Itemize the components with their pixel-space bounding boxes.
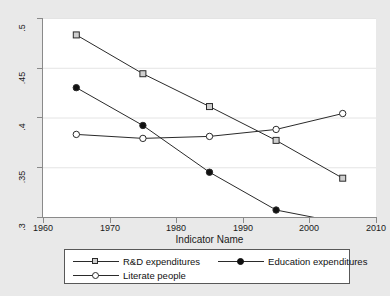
square-marker-icon	[140, 71, 146, 77]
open-circle-marker-icon	[92, 272, 99, 279]
series-layer	[73, 32, 346, 217]
x-tick-label: 2010	[356, 223, 390, 233]
legend-row-1: R&D expenditures Education expenditures	[73, 254, 367, 269]
x-tick-label: 1990	[223, 223, 263, 233]
legend-entry-rd[interactable]: R&D expenditures	[73, 254, 200, 269]
y-axis-line	[42, 18, 43, 218]
x-tick-label: 2000	[289, 223, 329, 233]
legend-label-education: Education expenditures	[268, 256, 367, 267]
y-tick	[37, 68, 43, 69]
y-tick-label: .4	[17, 115, 27, 139]
plot-area	[43, 18, 376, 217]
x-tick-label: 1960	[23, 223, 63, 233]
filled-circle-marker-icon	[140, 122, 146, 128]
square-marker-icon	[92, 258, 98, 264]
plot-svg	[43, 18, 376, 217]
y-tick	[37, 117, 43, 118]
y-tick-label: .35	[17, 165, 27, 189]
legend-key-open-circle	[73, 270, 119, 282]
y-tick	[37, 18, 43, 19]
legend-entry-education[interactable]: Education expenditures	[218, 254, 367, 269]
chart-legend: R&D expenditures Education expenditures	[64, 249, 350, 284]
x-axis-title: Indicator Name	[43, 234, 376, 245]
filled-circle-marker-icon	[237, 258, 244, 265]
x-tick-label: 1970	[90, 223, 130, 233]
x-tick-label: 1980	[156, 223, 196, 233]
filled-circle-marker-icon	[273, 207, 279, 213]
x-axis-line	[42, 217, 377, 218]
filled-circle-marker-icon	[206, 169, 212, 175]
chart-figure: .3.35.4.45.5 196019701980199020002010 In…	[0, 0, 390, 296]
legend-key-square	[73, 256, 119, 268]
y-tick	[37, 167, 43, 168]
open-circle-marker-icon	[273, 126, 279, 132]
y-tick-label: .45	[17, 66, 27, 90]
legend-label-literate: Literate people	[123, 270, 186, 281]
open-circle-marker-icon	[140, 135, 146, 141]
legend-key-filled-circle	[218, 256, 264, 268]
series-2	[73, 110, 346, 141]
square-marker-icon	[273, 137, 279, 143]
legend-entry-literate[interactable]: Literate people	[73, 268, 186, 283]
open-circle-marker-icon	[73, 131, 79, 137]
legend-row-2: Literate people	[73, 268, 186, 283]
square-marker-icon	[73, 32, 79, 38]
legend-label-rd: R&D expenditures	[123, 256, 200, 267]
series-0	[73, 32, 345, 181]
open-circle-marker-icon	[340, 110, 346, 116]
y-tick-label: .5	[17, 16, 27, 40]
square-marker-icon	[207, 104, 213, 110]
open-circle-marker-icon	[206, 133, 212, 139]
square-marker-icon	[340, 175, 346, 181]
chart-canvas: .3.35.4.45.5 196019701980199020002010 In…	[6, 4, 384, 288]
filled-circle-marker-icon	[73, 84, 79, 90]
